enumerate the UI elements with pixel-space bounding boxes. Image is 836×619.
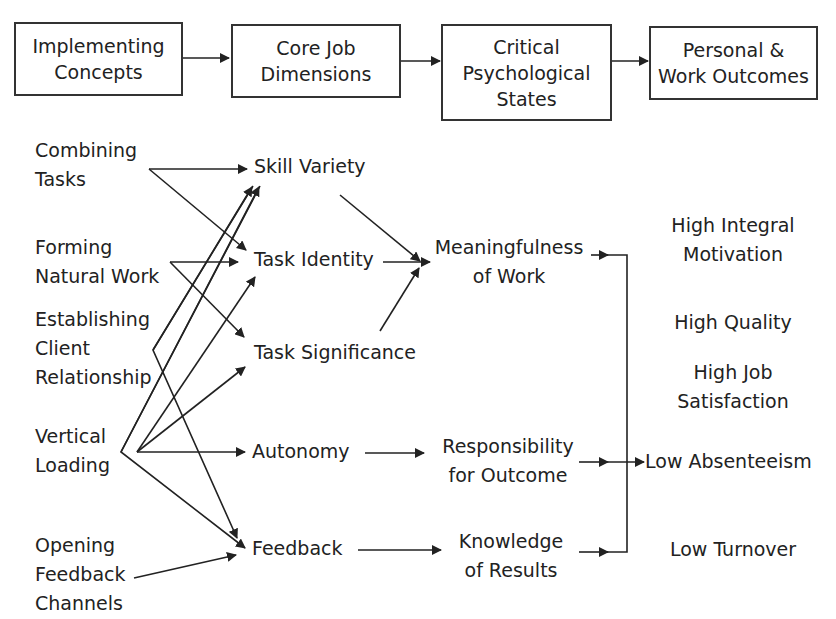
label-line: Opening (35, 531, 125, 560)
label-line: Forming (35, 233, 159, 262)
dimension-task-significance: Task Significance (254, 338, 416, 367)
label-line: Feedback (35, 560, 125, 589)
outcome-low-turnover: Low Turnover (650, 535, 816, 564)
label-line: for Outcome (436, 461, 580, 490)
label-line: Knowledge (446, 527, 576, 556)
dimension-task-identity: Task Identity (254, 245, 374, 274)
box-text: Critical (493, 34, 559, 60)
box-text: Personal & (683, 37, 785, 63)
header-box-core-job-dimensions: Core Job Dimensions (231, 24, 401, 98)
label-line: Meaningfulness (428, 233, 590, 262)
state-knowledge-of-results: Knowledge of Results (446, 527, 576, 585)
outcome-high-quality: High Quality (650, 308, 816, 337)
label-line: Low Turnover (650, 535, 816, 564)
state-responsibility-for-outcome: Responsibility for Outcome (436, 432, 580, 490)
header-box-critical-psychological-states: Critical Psychological States (441, 24, 612, 121)
header-box-personal-work-outcomes: Personal & Work Outcomes (649, 26, 818, 100)
dimension-feedback: Feedback (252, 534, 342, 563)
label-line: Low Absenteeism (645, 447, 812, 476)
box-text: Core Job (276, 35, 355, 61)
label-line: Channels (35, 589, 125, 618)
label-line: Establishing (35, 305, 152, 334)
label-line: Satisfaction (650, 387, 816, 416)
label-line: High Quality (650, 308, 816, 337)
label-line: Natural Work (35, 262, 159, 291)
label-line: Vertical (35, 422, 110, 451)
box-text: Psychological (463, 60, 591, 86)
label-line: High Integral (650, 211, 816, 240)
label-line: Loading (35, 451, 110, 480)
label-line: of Results (446, 556, 576, 585)
label-line: Tasks (35, 165, 137, 194)
header-box-implementing-concepts: Implementing Concepts (14, 22, 183, 96)
box-text: Concepts (54, 59, 142, 85)
label-line: of Work (428, 262, 590, 291)
concept-combining-tasks: Combining Tasks (35, 136, 137, 194)
label-line: Combining (35, 136, 137, 165)
outcome-low-absenteeism: Low Absenteeism (645, 447, 812, 476)
label-line: Relationship (35, 363, 152, 392)
label-line: Responsibility (436, 432, 580, 461)
box-text: Dimensions (261, 61, 372, 87)
box-text: States (496, 86, 556, 112)
label-line: High Job (650, 358, 816, 387)
state-meaningfulness-of-work: Meaningfulness of Work (428, 233, 590, 291)
concept-vertical-loading: Vertical Loading (35, 422, 110, 480)
outcome-high-integral-motivation: High Integral Motivation (650, 211, 816, 269)
box-text: Implementing (32, 33, 164, 59)
outcome-high-job-satisfaction: High Job Satisfaction (650, 358, 816, 416)
box-text: Work Outcomes (658, 63, 809, 89)
label-line: Motivation (650, 240, 816, 269)
dimension-autonomy: Autonomy (252, 437, 350, 466)
concept-opening-feedback-channels: Opening Feedback Channels (35, 531, 125, 618)
concept-establishing-client-relationship: Establishing Client Relationship (35, 305, 152, 392)
dimension-skill-variety: Skill Variety (254, 152, 366, 181)
label-line: Client (35, 334, 152, 363)
concept-forming-natural-work: Forming Natural Work (35, 233, 159, 291)
